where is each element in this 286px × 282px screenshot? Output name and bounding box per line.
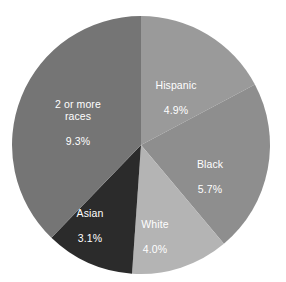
pie-chart-canvas — [0, 0, 286, 282]
pie-slice-group — [12, 16, 270, 274]
pie-chart: Hispanic 4.9% Black 5.7% White 4.0% Asia… — [0, 0, 286, 282]
